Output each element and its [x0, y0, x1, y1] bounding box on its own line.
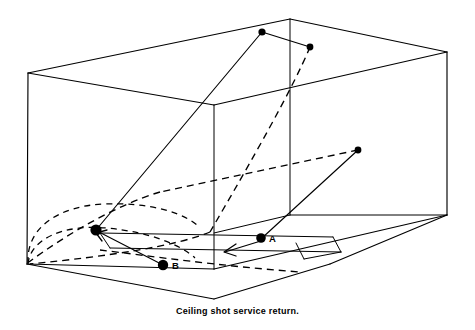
- front-wall-contact-dot: [90, 224, 101, 235]
- wall-edge-apex-to-inner-floor: [214, 215, 290, 233]
- player-b-dot: [158, 260, 168, 270]
- wall-edge-front-left-vertical: [27, 73, 28, 264]
- trajectory-return-rebound: [160, 150, 358, 192]
- floor-short-line: [100, 233, 333, 237]
- court-diagram: A B: [0, 0, 475, 330]
- player-a-dot: [256, 233, 266, 243]
- trajectory-ceiling-shot: [96, 32, 262, 230]
- floor-edge-front-left-to-near-right: [27, 264, 214, 299]
- ceiling-rebound-dot: [307, 44, 314, 51]
- label-point-a: A: [269, 233, 276, 244]
- label-point-b: B: [172, 260, 179, 271]
- dashed-trajectories: [28, 47, 358, 272]
- floor-edge-inner-back-to-right: [214, 215, 447, 269]
- figure-caption: Ceiling shot service return.: [0, 306, 475, 316]
- trajectory-ball-descent: [210, 47, 310, 232]
- floor-edge-front-left-to-inner-back: [27, 264, 214, 269]
- floor-receiving-line: [304, 252, 341, 259]
- figure-container: A B Ceiling shot service return.: [0, 0, 475, 330]
- ceiling-edge-inner-back-to-right: [214, 52, 447, 105]
- ceiling-edge-front-left-to-inner-back: [28, 73, 214, 105]
- ceiling-contact-dot: [258, 28, 265, 35]
- trajectory-ceiling-rebound: [262, 32, 310, 47]
- side-wall-target-dot: [355, 147, 362, 154]
- floor-edge-near-right-to-far-right: [330, 215, 447, 264]
- trajectory-a-to-side-target: [262, 150, 358, 238]
- ceiling-edge-apex-to-right: [290, 19, 447, 52]
- floor-service-box-divider: [333, 237, 341, 252]
